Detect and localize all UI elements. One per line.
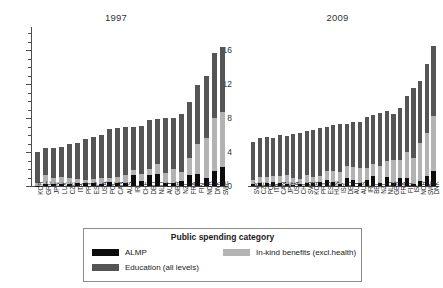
bar-segment-edu bbox=[331, 125, 335, 171]
legend-label-in-kind-benefits: In-kind benefits (excl.health) bbox=[256, 248, 356, 257]
bar-segment-edu bbox=[278, 135, 282, 176]
bar-segment-edu bbox=[251, 142, 255, 180]
bar-group bbox=[170, 33, 178, 186]
bar-segment-inkind bbox=[325, 171, 329, 180]
x-tick: NOR bbox=[417, 188, 424, 218]
bar-group bbox=[310, 33, 317, 186]
bar-group bbox=[250, 33, 257, 186]
y-tick-minor bbox=[28, 76, 32, 77]
bar-group bbox=[377, 33, 384, 186]
stacked-bar bbox=[358, 122, 362, 186]
y-tick-minor bbox=[28, 110, 32, 111]
x-tick: DNK bbox=[430, 188, 437, 218]
bar-group bbox=[423, 33, 430, 186]
legend-item-in-kind-benefits: In-kind benefits (excl.health) bbox=[223, 248, 356, 257]
bar-group bbox=[363, 33, 370, 186]
stacked-bar bbox=[431, 46, 435, 186]
bar-segment-inkind bbox=[345, 166, 349, 178]
x-tick-label: DNK bbox=[433, 182, 440, 195]
x-tick: ISL bbox=[410, 188, 417, 218]
bar-group bbox=[317, 33, 324, 186]
stacked-bar bbox=[318, 128, 322, 186]
x-tick: AUT bbox=[162, 188, 170, 218]
bar-group bbox=[49, 33, 57, 186]
bar-segment-edu bbox=[291, 134, 295, 177]
y-tick-major bbox=[26, 84, 32, 85]
y-tick-major bbox=[26, 118, 32, 119]
stacked-bar bbox=[59, 147, 64, 186]
bar-segment-inkind bbox=[371, 164, 375, 176]
bar-segment-edu bbox=[385, 111, 389, 161]
bar-segment-edu bbox=[345, 124, 349, 166]
bar-segment-edu bbox=[220, 47, 225, 112]
bar-segment-edu bbox=[405, 96, 409, 152]
stacked-bar bbox=[67, 144, 72, 186]
bar-group bbox=[337, 33, 344, 186]
bar-segment-inkind bbox=[187, 158, 192, 175]
bar-segment-edu bbox=[163, 118, 168, 173]
stacked-bar bbox=[371, 115, 375, 186]
bar-group bbox=[113, 33, 121, 186]
bar-segment-edu bbox=[271, 138, 275, 177]
stacked-bar bbox=[271, 138, 275, 186]
x-tick: BEL bbox=[370, 188, 377, 218]
bar-group bbox=[277, 33, 284, 186]
bar-segment-edu bbox=[67, 144, 72, 179]
stacked-bar bbox=[107, 129, 112, 186]
y-tick-minor bbox=[28, 135, 32, 136]
x-tick: SWE bbox=[423, 188, 430, 218]
y-tick-minor bbox=[28, 33, 32, 34]
x-tick: KOR bbox=[310, 188, 317, 218]
bar-group bbox=[130, 33, 138, 186]
stacked-bar bbox=[291, 134, 295, 186]
stacked-bar bbox=[251, 142, 255, 186]
bar-segment-edu bbox=[378, 113, 382, 166]
stacked-bar bbox=[331, 125, 335, 186]
bar-group bbox=[89, 33, 97, 186]
bar-group bbox=[343, 33, 350, 186]
x-tick: CZE bbox=[65, 188, 73, 218]
bar-series-2009 bbox=[250, 33, 437, 186]
figure-root: 1997 0481216 KORGRCJPNLUXCZEITAPRTESPUSA… bbox=[0, 0, 443, 288]
x-tick: USA bbox=[290, 188, 297, 218]
stacked-bar bbox=[258, 138, 262, 186]
bar-segment-inkind bbox=[195, 144, 200, 174]
bar-group bbox=[270, 33, 277, 186]
bar-segment-edu bbox=[99, 135, 104, 179]
x-tick: LUX bbox=[57, 188, 65, 218]
legend-item-education: Education (all levels) bbox=[92, 263, 199, 272]
plot-area-2009: SVKCZEPOLITACANJPNUSACHLSVNKORPRTESPHUNI… bbox=[232, 0, 443, 220]
x-tick: CAN bbox=[277, 188, 284, 218]
stacked-bar bbox=[425, 64, 429, 186]
x-tick: ESP bbox=[323, 188, 330, 218]
stacked-bar bbox=[115, 128, 120, 186]
x-tick: USA bbox=[97, 188, 105, 218]
bar-group bbox=[383, 33, 390, 186]
stacked-bar bbox=[385, 111, 389, 186]
stacked-bar bbox=[139, 126, 144, 186]
bar-segment-edu bbox=[204, 76, 209, 137]
x-tick: NZL bbox=[178, 188, 186, 218]
stacked-bar bbox=[147, 120, 152, 186]
legend-swatch-education bbox=[92, 264, 119, 271]
bar-segment-edu bbox=[115, 128, 120, 177]
bar-segment-edu bbox=[325, 127, 329, 172]
y-tick-major bbox=[26, 152, 32, 153]
x-tick: KOR bbox=[33, 188, 41, 218]
y-tick-minor bbox=[28, 93, 32, 94]
legend-label-almp: ALMP bbox=[125, 248, 147, 257]
bar-segment-edu bbox=[51, 148, 56, 179]
bar-group bbox=[194, 33, 202, 186]
bar-group bbox=[122, 33, 130, 186]
x-tick: AUT bbox=[350, 188, 357, 218]
legend-title: Public spending category bbox=[84, 232, 361, 242]
stacked-bar bbox=[418, 81, 422, 186]
x-tick: ESP bbox=[89, 188, 97, 218]
x-axis-labels-2009: SVKCZEPOLITACANJPNUSACHLSVNKORPRTESPHUNI… bbox=[250, 188, 437, 218]
bar-segment-edu bbox=[311, 130, 315, 177]
stacked-bar bbox=[75, 143, 80, 186]
stacked-bar bbox=[398, 108, 402, 186]
x-tick: POL bbox=[105, 188, 113, 218]
bar-group bbox=[97, 33, 105, 186]
bar-group bbox=[357, 33, 364, 186]
